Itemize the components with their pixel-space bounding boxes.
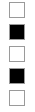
color-swatch-4[interactable] <box>9 68 25 84</box>
color-swatch-3[interactable] <box>9 46 25 62</box>
color-swatch-5[interactable] <box>9 90 25 106</box>
color-swatch-1[interactable] <box>9 2 25 18</box>
color-swatch-2[interactable] <box>9 24 25 40</box>
